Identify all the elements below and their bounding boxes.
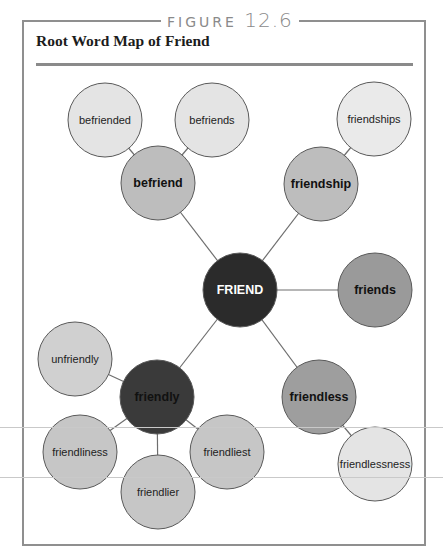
node-label: befriended <box>79 114 131 126</box>
node-label: friendlier <box>137 486 180 498</box>
node-label: befriend <box>133 176 182 190</box>
node-friend: FRIEND <box>203 253 277 327</box>
node-befriends: befriends <box>175 83 249 157</box>
node-label: friendships <box>347 113 401 125</box>
node-label: unfriendly <box>51 353 99 365</box>
node-friendship: friendship <box>284 147 358 221</box>
node-friends: friends <box>338 253 412 327</box>
node-friendless: friendless <box>282 360 356 434</box>
node-label: friendliest <box>203 446 250 458</box>
node-label: friendlessness <box>340 458 411 470</box>
node-friendly: friendly <box>120 360 194 434</box>
node-label: friendless <box>289 390 348 404</box>
node-label: befriends <box>189 114 235 126</box>
root-word-map: FRIENDbefriendbefriendedbefriendsfriends… <box>0 0 443 560</box>
node-label: friends <box>354 283 396 297</box>
node-friendlier: friendlier <box>121 455 195 529</box>
node-befriended: befriended <box>68 83 142 157</box>
word-nodes: FRIENDbefriendbefriendedbefriendsfriends… <box>38 82 412 529</box>
node-label: friendly <box>134 390 179 404</box>
node-unfriendly: unfriendly <box>38 322 112 396</box>
node-label: FRIEND <box>217 283 264 297</box>
node-friendlessness: friendlessness <box>338 427 412 501</box>
node-label: friendliness <box>52 446 108 458</box>
scan-artifact-line <box>0 477 443 478</box>
node-friendships: friendships <box>337 82 411 156</box>
node-label: friendship <box>291 177 352 191</box>
scan-artifact-line <box>0 427 443 428</box>
node-befriend: befriend <box>121 146 195 220</box>
